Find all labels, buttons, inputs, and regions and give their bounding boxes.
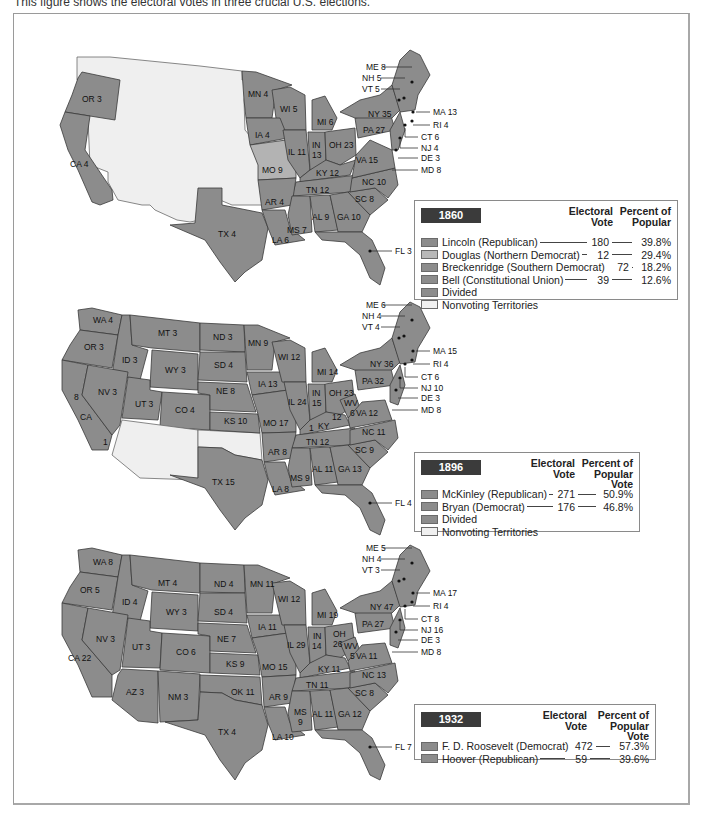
label-MT: MT 3 xyxy=(158,328,177,338)
label-MI: MI 19 xyxy=(317,610,339,620)
callout-FL: FL 4 xyxy=(395,498,412,508)
callout-NJ: NJ 4 xyxy=(421,143,439,153)
year-badge-1932: 1932 xyxy=(421,712,481,727)
label-ID: ID 4 xyxy=(122,597,138,607)
label-IL: IL 29 xyxy=(287,640,306,650)
label-LA: LA 10 xyxy=(272,732,294,742)
label-MI: MI 14 xyxy=(317,367,339,377)
label-AR: AR 4 xyxy=(265,197,284,207)
callout-DE: DE 3 xyxy=(421,153,440,163)
swatch xyxy=(421,275,438,284)
callout-RI: RI 4 xyxy=(433,601,449,611)
legend-row: Hoover (Republican)5939.6% xyxy=(421,753,649,766)
legend-1896: 1896 ElectoralVote Percent ofPopular Vot… xyxy=(414,452,640,532)
label-SC: SC 8 xyxy=(355,194,374,204)
electoral-vote: 271 xyxy=(555,488,575,501)
label-NC: NC 11 xyxy=(362,427,386,437)
label-WI: WI 5 xyxy=(280,104,298,114)
label-NC: NC 10 xyxy=(362,177,386,187)
label-TN: TN 12 xyxy=(306,437,329,447)
label-MN: MN 4 xyxy=(248,89,269,99)
callout-NJ: NJ 16 xyxy=(421,625,443,635)
electoral-vote: 472 xyxy=(573,740,593,753)
popular-pct: 12.6% xyxy=(635,274,671,287)
popular-pct: 39.8% xyxy=(635,236,671,249)
callout-MA: MA 15 xyxy=(433,346,457,356)
electoral-vote: 39 xyxy=(589,274,609,287)
state-mid-atlantic xyxy=(390,608,405,648)
callout-VT: VT 3 xyxy=(362,565,380,575)
label-WY: WY 3 xyxy=(166,607,187,617)
popular-pct: 46.8% xyxy=(599,501,633,514)
label-ND: ND 4 xyxy=(214,579,234,589)
label-WY: WY 3 xyxy=(165,365,186,375)
label-NY: NY 35 xyxy=(368,109,392,119)
label-MS: MS xyxy=(294,707,307,717)
label-MO: MO 15 xyxy=(262,662,288,672)
label-KY: KY xyxy=(318,421,330,431)
label-MS: MS 9 xyxy=(290,473,310,483)
label-SC: SC 9 xyxy=(355,445,374,455)
label-ID: ID 3 xyxy=(122,355,138,365)
label-NV: NV 3 xyxy=(96,634,115,644)
label-PA: PA 27 xyxy=(362,619,384,629)
label-AL: AL 11 xyxy=(312,709,334,719)
col-head-vote-2: Vote xyxy=(527,469,575,480)
swatch xyxy=(421,754,438,763)
col-head-vote: Electoral xyxy=(527,458,575,469)
label-AZ: AZ 3 xyxy=(126,687,144,697)
label-TN: TN 11 xyxy=(306,680,329,690)
label-CA-8: 8 xyxy=(74,392,79,402)
state-FL xyxy=(315,730,385,780)
legend-row: Bell (Constitutional Union)3912.6% xyxy=(421,274,671,287)
label-CA-1: 1 xyxy=(103,437,108,447)
candidate-name: McKinley (Republican) xyxy=(442,488,547,501)
label-NE: NE 7 xyxy=(217,634,236,644)
callout-VT: VT 4 xyxy=(362,322,380,332)
label-VA: VA 12 xyxy=(356,408,378,418)
col-head-vote-2: Vote xyxy=(539,721,587,732)
candidate-name: Bryan (Democrat) xyxy=(442,501,525,514)
legend-1860: 1860 ElectoralVote Percent ofPopular Lin… xyxy=(414,200,678,300)
callout-RI: RI 4 xyxy=(433,359,449,369)
state-mid-atlantic xyxy=(390,365,405,405)
label-OK: OK 11 xyxy=(231,687,255,697)
label-OH: OH 23 xyxy=(329,140,354,150)
label-IN-votes: 14 xyxy=(312,641,322,651)
label-UT: UT 3 xyxy=(132,642,151,652)
callout-CT: CT 8 xyxy=(421,614,440,624)
label-NE: NE 8 xyxy=(216,386,235,396)
callout-NH: NH 5 xyxy=(362,73,382,83)
label-WA: WA 4 xyxy=(93,315,113,325)
state-new-england xyxy=(392,545,430,607)
callout-NH: NH 4 xyxy=(362,554,382,564)
legend-row: Lincoln (Republican)18039.8% xyxy=(421,236,671,249)
callout-MD: MD 8 xyxy=(421,165,442,175)
label-WV: WV xyxy=(344,641,358,651)
label-AR: AR 9 xyxy=(269,692,288,702)
candidate-name: Hoover (Republican) xyxy=(442,753,538,766)
label-AR: AR 8 xyxy=(268,447,287,457)
label-OR: OR 5 xyxy=(80,585,100,595)
label-UT: UT 3 xyxy=(135,399,154,409)
col-head-pct: Percent of xyxy=(575,458,633,469)
label-VA: VA 11 xyxy=(356,651,378,661)
col-head-pct-2: Popular Vote xyxy=(587,721,649,742)
legend-row: Divided xyxy=(421,513,633,526)
label-IN-votes: 15 xyxy=(312,398,322,408)
label-SC: SC 8 xyxy=(355,688,374,698)
col-head-pct-2: Popular xyxy=(613,217,671,228)
candidate-name: Breckenridge (Southern Democrat) xyxy=(442,261,605,274)
col-head-vote: Electoral xyxy=(539,710,587,721)
label-NY: NY 36 xyxy=(370,359,394,369)
year-badge-1860: 1860 xyxy=(421,208,481,223)
callout-VT: VT 5 xyxy=(362,84,380,94)
callout-DE: DE 3 xyxy=(421,393,440,403)
callout-DE: DE 3 xyxy=(421,635,440,645)
label-PA: PA 27 xyxy=(363,125,385,135)
label-LA: LA 8 xyxy=(272,484,289,494)
popular-pct: 50.9% xyxy=(599,488,633,501)
col-head-vote: Electoral xyxy=(553,206,613,217)
label-VA: VA 15 xyxy=(356,155,378,165)
legend-1932: 1932 ElectoralVote Percent ofPopular Vot… xyxy=(414,704,656,760)
